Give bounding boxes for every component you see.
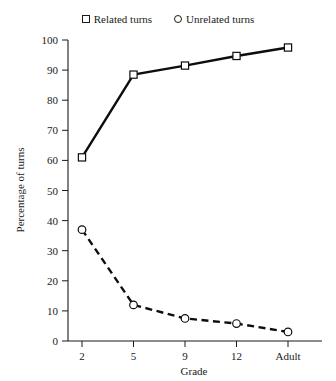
y-tick-label: 20 — [47, 275, 59, 287]
y-axis-ticks: 0102030405060708090100 — [42, 34, 69, 347]
x-axis-ticks: 25912Adult — [79, 341, 300, 362]
y-tick-label: 30 — [47, 245, 59, 257]
data-point-marker — [284, 44, 291, 51]
y-tick-label: 70 — [47, 124, 59, 136]
y-tick-label: 90 — [47, 64, 59, 76]
data-point-marker — [181, 315, 189, 323]
x-axis-title: Grade — [181, 365, 208, 377]
x-tick-label: Adult — [275, 350, 300, 362]
y-axis-title: Percentage of turns — [14, 148, 26, 233]
y-tick-label: 100 — [42, 34, 59, 46]
y-tick-label: 10 — [47, 305, 59, 317]
x-tick-label: 2 — [79, 350, 85, 362]
y-tick-label: 80 — [47, 94, 59, 106]
y-tick-label: 40 — [47, 215, 59, 227]
y-tick-label: 50 — [47, 185, 59, 197]
x-tick-label: 9 — [182, 350, 188, 362]
plot-area: 0102030405060708090100 25912Adult Grade … — [0, 0, 336, 381]
data-point-marker — [181, 62, 188, 69]
data-point-marker — [78, 154, 85, 161]
data-series-group — [78, 44, 292, 336]
data-point-marker — [284, 328, 292, 336]
data-point-marker — [233, 320, 241, 328]
x-tick-label: 5 — [131, 350, 137, 362]
data-point-marker — [130, 301, 138, 309]
data-point-marker — [233, 52, 240, 59]
x-tick-label: 12 — [231, 350, 242, 362]
chart-figure: Related turns Unrelated turns 0102030405… — [0, 0, 336, 381]
y-tick-label: 0 — [53, 335, 59, 347]
data-point-marker — [78, 226, 86, 234]
y-tick-label: 60 — [47, 154, 59, 166]
data-point-marker — [130, 71, 137, 78]
